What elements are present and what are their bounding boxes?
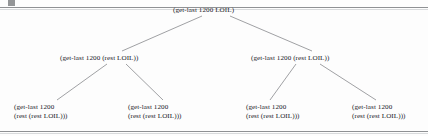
tree-node-leaf-1-line-1: (get-last 1200 bbox=[14, 103, 68, 112]
edge-root-to-right bbox=[230, 16, 312, 51]
tree-node-leaf-2-line-2: (rest (rest LOIL))) bbox=[128, 112, 182, 121]
tree-node-leaf-3-line-2: (rest (rest LOIL))) bbox=[246, 112, 300, 121]
tree-node-level2-left-line-1: (get-last 1200 (rest LOIL)) bbox=[60, 54, 138, 63]
tree-node-root-line-1: (get-last 1200 LOIL) bbox=[173, 6, 234, 15]
tree-node-leaf-3-line-1: (get-last 1200 bbox=[246, 103, 300, 112]
page-rule-bottom-secondary bbox=[0, 133, 428, 134]
tree-node-level2-right-line-1: (get-last 1200 (rest LOIL)) bbox=[251, 54, 329, 63]
edge-right-to-child3 bbox=[270, 64, 296, 100]
tree-node-level2-right: (get-last 1200 (rest LOIL)) bbox=[251, 54, 329, 63]
tree-node-leaf-4-line-2: (rest (rest LOIL))) bbox=[352, 112, 406, 121]
edge-left-to-child2 bbox=[126, 64, 163, 100]
edge-root-to-left bbox=[122, 16, 202, 51]
tree-node-leaf-1: (get-last 1200 (rest (rest LOIL))) bbox=[14, 103, 68, 120]
recursion-tree-figure: (get-last 1200 LOIL) (get-last 1200 (res… bbox=[0, 0, 428, 136]
tree-node-leaf-1-line-2: (rest (rest LOIL))) bbox=[14, 112, 68, 121]
tree-node-leaf-2: (get-last 1200 (rest (rest LOIL))) bbox=[128, 103, 182, 120]
tree-node-leaf-4: (get-last 1200 (rest (rest LOIL))) bbox=[352, 103, 406, 120]
tree-node-level2-left: (get-last 1200 (rest LOIL)) bbox=[60, 54, 138, 63]
tree-node-leaf-2-line-1: (get-last 1200 bbox=[128, 103, 182, 112]
page-rule-bottom bbox=[0, 131, 428, 132]
edge-right-to-child4 bbox=[320, 64, 376, 100]
edge-left-to-child1 bbox=[57, 64, 107, 100]
tree-node-leaf-4-line-1: (get-last 1200 bbox=[352, 103, 406, 112]
tree-node-root: (get-last 1200 LOIL) bbox=[173, 6, 234, 15]
tree-node-leaf-3: (get-last 1200 (rest (rest LOIL))) bbox=[246, 103, 300, 120]
